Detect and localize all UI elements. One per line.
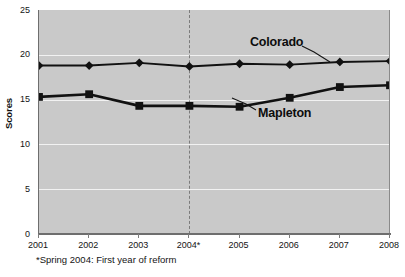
x-tick-label: 2005 bbox=[216, 240, 262, 250]
y-axis-title: Scores bbox=[3, 84, 14, 144]
data-point-mapleton-2002 bbox=[85, 90, 93, 98]
x-tick-mark bbox=[188, 234, 189, 238]
data-point-colorado-2008 bbox=[386, 57, 390, 66]
series-label-mapleton: Mapleton bbox=[258, 106, 311, 120]
chart-footnote: *Spring 2004: First year of reform bbox=[36, 254, 176, 265]
plot-area bbox=[38, 10, 390, 234]
data-point-mapleton-2003 bbox=[135, 102, 143, 110]
line-chart: Scores 0510152025 2001200220032004*20052… bbox=[0, 0, 405, 277]
x-tick-label: 2001 bbox=[15, 240, 61, 250]
y-tick-label: 10 bbox=[4, 140, 30, 149]
x-tick-label: 2008 bbox=[366, 240, 405, 250]
x-tick-mark bbox=[339, 234, 340, 238]
y-tick-label: 25 bbox=[4, 6, 30, 15]
x-tick-label: 2007 bbox=[316, 240, 362, 250]
x-tick-mark bbox=[289, 234, 290, 238]
data-point-colorado-2005 bbox=[235, 59, 244, 68]
y-tick-label: 15 bbox=[4, 95, 30, 104]
x-tick-mark bbox=[389, 234, 390, 238]
data-point-mapleton-2008 bbox=[386, 81, 390, 89]
y-tick-label: 0 bbox=[4, 230, 30, 239]
data-point-mapleton-2004* bbox=[186, 102, 194, 110]
x-tick-label: 2004* bbox=[165, 240, 211, 250]
y-tick-label: 5 bbox=[4, 185, 30, 194]
x-tick-mark bbox=[88, 234, 89, 238]
x-tick-label: 2002 bbox=[65, 240, 111, 250]
data-point-colorado-2004* bbox=[185, 62, 194, 71]
data-point-colorado-2001 bbox=[38, 61, 43, 70]
series-plot bbox=[39, 10, 390, 234]
data-point-mapleton-2001 bbox=[38, 93, 43, 101]
data-point-colorado-2007 bbox=[335, 58, 344, 67]
data-point-mapleton-2006 bbox=[286, 94, 294, 102]
x-tick-mark bbox=[38, 234, 39, 238]
data-point-colorado-2002 bbox=[85, 61, 94, 70]
data-point-mapleton-2005 bbox=[236, 103, 244, 111]
data-point-colorado-2006 bbox=[285, 60, 294, 69]
x-tick-mark bbox=[138, 234, 139, 238]
x-tick-mark bbox=[239, 234, 240, 238]
series-label-colorado: Colorado bbox=[250, 35, 303, 49]
x-tick-label: 2003 bbox=[115, 240, 161, 250]
data-point-mapleton-2007 bbox=[336, 83, 344, 91]
x-tick-label: 2006 bbox=[266, 240, 312, 250]
data-point-colorado-2003 bbox=[135, 58, 144, 67]
y-tick-label: 20 bbox=[4, 50, 30, 59]
